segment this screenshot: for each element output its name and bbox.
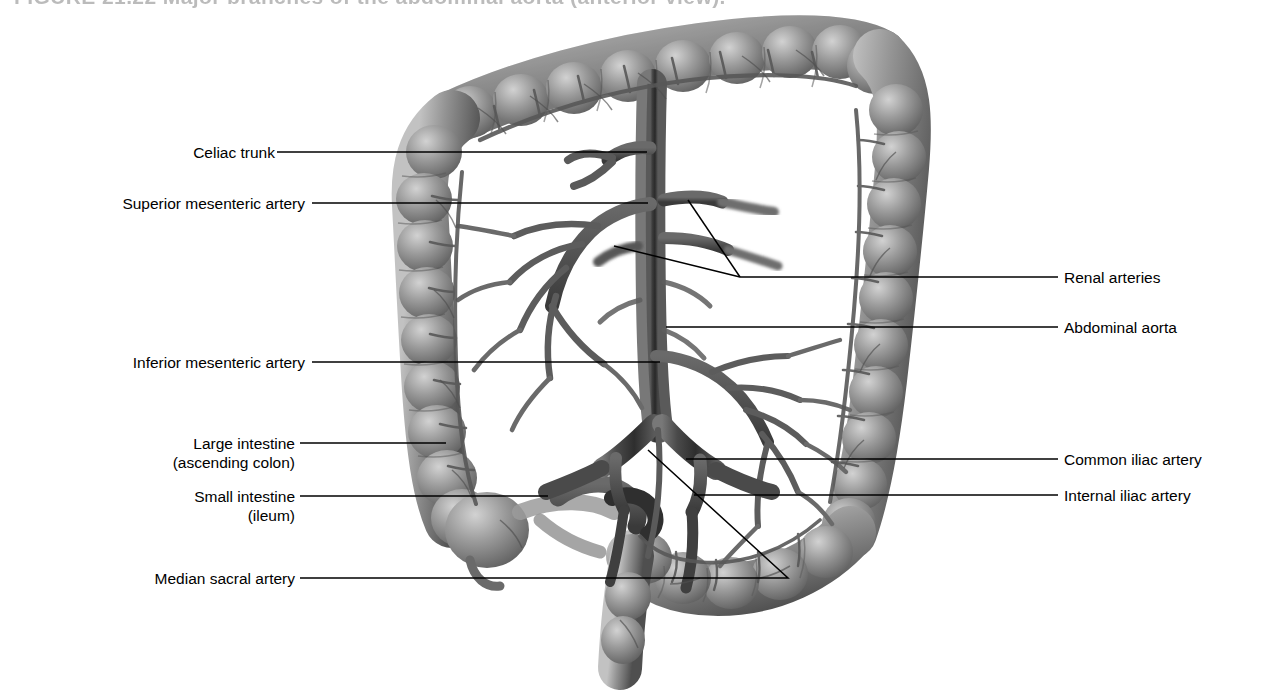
label-celiac-trunk-text: Celiac trunk <box>193 144 275 161</box>
label-small-intestine: Small intestine (ileum) <box>55 487 295 525</box>
label-common-iliac-artery: Common iliac artery <box>1064 450 1202 469</box>
label-superior-mesenteric-artery: Superior mesenteric artery <box>40 194 305 213</box>
label-celiac-trunk: Celiac trunk <box>175 143 275 162</box>
ascending-colon <box>396 118 529 586</box>
common-iliac-artery-vessel <box>662 424 716 470</box>
label-large-intestine-text: Large intestine <box>193 435 295 452</box>
internal-iliac-artery-vessel <box>692 460 701 512</box>
label-internal-iliac-artery-text: Internal iliac artery <box>1064 487 1191 504</box>
label-large-intestine-sub: (ascending colon) <box>55 453 295 472</box>
superior-mesenteric-artery-vessel <box>458 204 650 430</box>
descending-colon <box>822 56 926 550</box>
label-superior-mesenteric-artery-text: Superior mesenteric artery <box>122 195 305 212</box>
label-common-iliac-artery-text: Common iliac artery <box>1064 451 1202 468</box>
label-inferior-mesenteric-artery-text: Inferior mesenteric artery <box>133 354 305 371</box>
label-renal-arteries: Renal arteries <box>1064 268 1161 287</box>
label-renal-arteries-text: Renal arteries <box>1064 269 1161 286</box>
label-median-sacral-artery: Median sacral artery <box>60 569 295 588</box>
label-small-intestine-sub: (ileum) <box>55 506 295 525</box>
label-abdominal-aorta-text: Abdominal aorta <box>1064 319 1177 336</box>
label-internal-iliac-artery: Internal iliac artery <box>1064 486 1191 505</box>
label-abdominal-aorta: Abdominal aorta <box>1064 318 1177 337</box>
label-small-intestine-text: Small intestine <box>194 488 295 505</box>
label-median-sacral-artery-text: Median sacral artery <box>155 570 295 587</box>
sigmoid-colon <box>601 526 853 668</box>
label-inferior-mesenteric-artery: Inferior mesenteric artery <box>40 353 305 372</box>
label-large-intestine: Large intestine (ascending colon) <box>55 434 295 472</box>
anatomy-illustration <box>0 0 1275 695</box>
figure-page: FIGURE 21.22 Major branches of the abdom… <box>0 0 1275 695</box>
